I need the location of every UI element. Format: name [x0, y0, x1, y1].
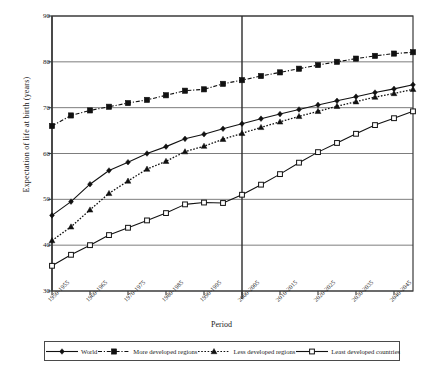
legend-key-icon — [197, 347, 231, 356]
data-point-marker — [335, 141, 340, 146]
series-less-developed-regions — [49, 86, 416, 242]
data-point-marker — [68, 113, 73, 118]
series-line — [52, 52, 413, 126]
data-point-marker — [87, 108, 92, 113]
data-point-marker — [278, 111, 283, 117]
legend-key-icon — [97, 347, 131, 356]
data-point-marker — [144, 166, 150, 171]
data-point-marker — [112, 348, 117, 353]
data-point-marker — [144, 97, 149, 102]
data-point-marker — [164, 144, 169, 150]
legend-item-label: Least developed countries — [331, 348, 400, 355]
data-point-marker — [372, 94, 378, 99]
legend-item-less-developed-regions[interactable]: Less developed regions — [197, 347, 295, 356]
data-point-marker — [277, 70, 282, 75]
data-point-marker — [107, 233, 112, 238]
series-line — [52, 89, 413, 240]
data-point-marker — [202, 200, 207, 205]
data-point-marker — [258, 73, 263, 78]
data-point-marker — [335, 98, 340, 104]
x-axis-title: Period — [0, 320, 443, 329]
data-point-marker — [334, 103, 340, 108]
data-point-marker — [201, 87, 206, 92]
data-point-marker — [297, 160, 302, 165]
data-point-marker — [334, 59, 339, 64]
data-point-marker — [392, 116, 397, 121]
data-point-marker — [316, 102, 321, 108]
legend-key-icon — [45, 347, 79, 356]
data-point-marker — [239, 130, 245, 135]
data-point-marker — [183, 202, 188, 207]
data-point-marker — [353, 56, 358, 61]
data-point-marker — [239, 78, 244, 83]
data-point-marker — [50, 263, 55, 268]
data-point-marker — [354, 131, 359, 136]
data-point-marker — [391, 51, 396, 56]
data-point-marker — [125, 178, 131, 183]
data-point-marker — [259, 116, 264, 122]
data-point-marker — [126, 159, 131, 165]
series-least-developed-countries — [50, 109, 416, 268]
life-expectancy-chart: Expectation of life at birth (years) 304… — [0, 0, 443, 372]
legend-item-world[interactable]: World — [45, 347, 97, 356]
data-point-marker — [411, 109, 416, 114]
data-point-marker — [126, 225, 131, 230]
data-point-marker — [49, 123, 54, 128]
data-point-marker — [316, 150, 321, 155]
data-point-marker — [145, 218, 150, 223]
data-point-marker — [106, 190, 112, 195]
data-point-marker — [145, 151, 150, 157]
data-point-marker — [220, 81, 225, 86]
legend-item-label: More developed regions — [133, 348, 197, 355]
data-point-marker — [60, 348, 65, 354]
data-point-marker — [296, 66, 301, 71]
data-point-marker — [164, 211, 169, 216]
legend-item-label: World — [81, 348, 97, 355]
data-point-marker — [106, 104, 111, 109]
data-point-marker — [310, 349, 315, 354]
legend-item-more-developed-regions[interactable]: More developed regions — [97, 347, 197, 356]
data-point-marker — [410, 50, 415, 55]
data-point-marker — [221, 126, 226, 132]
data-point-marker — [183, 136, 188, 142]
data-point-marker — [125, 100, 130, 105]
data-point-marker — [373, 123, 378, 128]
data-point-marker — [88, 243, 93, 248]
data-point-marker — [49, 238, 55, 243]
data-point-marker — [50, 213, 55, 219]
plot-area — [0, 0, 443, 372]
data-point-marker — [221, 201, 226, 206]
data-point-marker — [258, 124, 264, 129]
data-point-marker — [240, 192, 245, 197]
data-point-marker — [240, 121, 245, 127]
data-point-marker — [163, 93, 168, 98]
data-point-marker — [278, 172, 283, 177]
chart-legend: WorldMore developed regionsLess develope… — [44, 341, 400, 361]
data-point-marker — [69, 252, 74, 257]
data-point-marker — [391, 90, 397, 95]
data-point-marker — [182, 88, 187, 93]
data-point-marker — [182, 149, 188, 154]
data-point-marker — [353, 99, 359, 104]
data-point-marker — [107, 168, 112, 174]
data-point-marker — [315, 62, 320, 67]
legend-item-label: Less developed regions — [233, 348, 295, 355]
data-point-marker — [410, 86, 416, 91]
data-point-marker — [259, 182, 264, 187]
legend-item-least-developed-countries[interactable]: Least developed countries — [295, 347, 400, 356]
data-point-marker — [202, 131, 207, 137]
legend-key-icon — [295, 347, 329, 356]
data-point-marker — [372, 53, 377, 58]
